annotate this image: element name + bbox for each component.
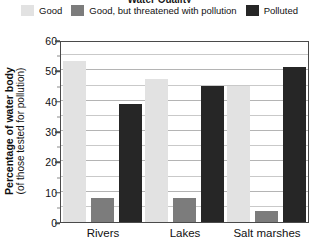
bar-rivers-good <box>63 61 86 222</box>
x-tick-label-rivers: Rivers <box>87 226 120 240</box>
bar-rivers-good <box>91 198 114 222</box>
bar-lakes-polluted <box>201 86 224 223</box>
bar-salt-marshes-good <box>255 211 278 222</box>
bar-group-salt-marshes <box>225 42 307 222</box>
legend-item-threatened: Good, but threatened with pollution <box>71 5 236 16</box>
chart-container: Water Quality Good Good, but threatened … <box>0 0 319 248</box>
x-axis-labels: RiversLakesSalt marshes <box>60 226 309 246</box>
chart-legend: Good Good, but threatened with pollution… <box>0 3 319 17</box>
bar-lakes-good <box>145 79 168 222</box>
legend-item-polluted: Polluted <box>246 5 298 16</box>
bar-salt-marshes-polluted <box>283 67 306 222</box>
plot-area <box>60 41 309 223</box>
bar-group-lakes <box>143 42 225 222</box>
legend-item-good: Good <box>21 5 62 16</box>
bar-rivers-polluted <box>119 104 142 222</box>
bar-groups <box>61 42 308 222</box>
bar-lakes-good <box>173 198 196 222</box>
x-tick-label-salt-marshes: Salt marshes <box>233 226 300 240</box>
legend-swatch-polluted <box>246 5 259 16</box>
y-axis-labels: 0102030405060 <box>28 41 57 223</box>
x-tick-label-lakes: Lakes <box>170 226 201 240</box>
bar-group-rivers <box>61 42 143 222</box>
y-axis-title-line1: Percentage of water body <box>3 67 16 195</box>
y-axis-title: Percentage of water body (of those teste… <box>0 36 30 226</box>
legend-label-polluted: Polluted <box>264 5 298 16</box>
bar-salt-marshes-good <box>227 86 250 223</box>
legend-label-threatened: Good, but threatened with pollution <box>89 5 236 16</box>
legend-swatch-good <box>21 5 34 16</box>
legend-label-good: Good <box>39 5 62 16</box>
y-axis-title-line2: (of those tested for pollution) <box>15 67 28 195</box>
legend-swatch-threatened <box>71 5 84 16</box>
